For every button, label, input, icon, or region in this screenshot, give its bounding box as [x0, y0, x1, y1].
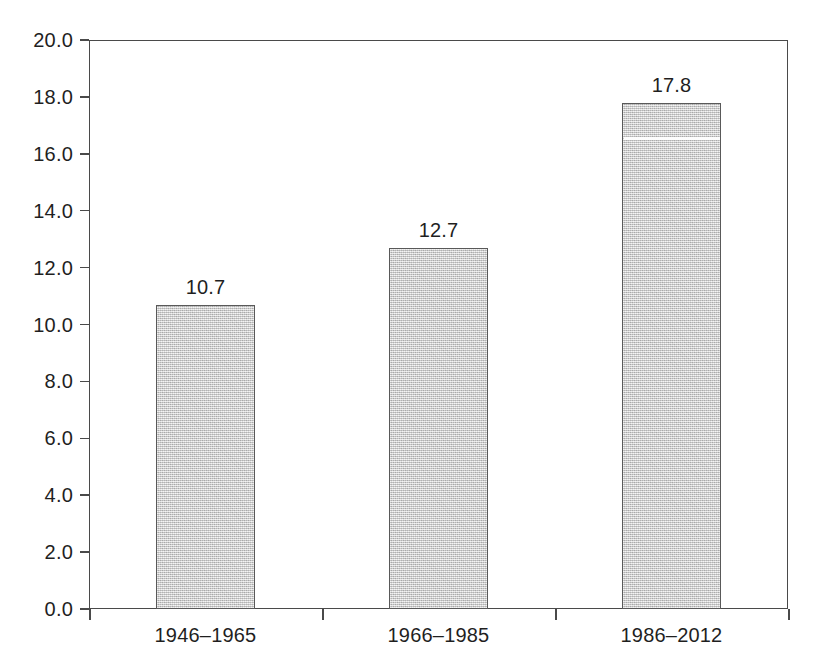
x-tick-mark: [555, 609, 557, 620]
bar-value-label: 10.7: [186, 274, 226, 300]
bar-value-label: 12.7: [419, 217, 459, 243]
bar-value-label: 17.8: [652, 72, 692, 98]
y-tick-mark: [80, 39, 89, 41]
y-tick-label: 18.0: [33, 84, 73, 110]
x-axis-label: 1966–1985: [388, 622, 490, 648]
y-tick-mark: [80, 96, 89, 98]
bar-chart: 0.02.04.06.08.010.012.014.016.018.020.0 …: [0, 0, 822, 672]
x-tick-mark: [322, 609, 324, 620]
bar: [389, 248, 488, 609]
y-tick-mark: [80, 608, 89, 610]
y-tick-label: 14.0: [33, 198, 73, 224]
y-tick-label: 16.0: [33, 141, 73, 167]
y-tick-label: 20.0: [33, 27, 73, 53]
y-tick-mark: [80, 210, 89, 212]
y-tick-mark: [80, 324, 89, 326]
y-tick-label: 0.0: [45, 596, 73, 622]
y-tick-label: 6.0: [45, 425, 73, 451]
y-tick-mark: [80, 153, 89, 155]
y-tick-label: 8.0: [45, 368, 73, 394]
x-axis-label: 1986–2012: [621, 622, 723, 648]
y-tick-label: 12.0: [33, 255, 73, 281]
x-tick-mark: [89, 609, 91, 620]
x-tick-mark: [788, 609, 790, 620]
y-tick-label: 10.0: [33, 312, 73, 338]
bar: [622, 103, 721, 609]
y-tick-mark: [80, 381, 89, 383]
y-tick-label: 4.0: [45, 482, 73, 508]
bar: [156, 305, 255, 609]
y-tick-mark: [80, 438, 89, 440]
scan-artifact-line: [624, 137, 720, 140]
y-tick-mark: [80, 551, 89, 553]
x-axis-label: 1946–1965: [155, 622, 257, 648]
y-tick-mark: [80, 494, 89, 496]
y-tick-mark: [80, 267, 89, 269]
y-tick-label: 2.0: [45, 539, 73, 565]
